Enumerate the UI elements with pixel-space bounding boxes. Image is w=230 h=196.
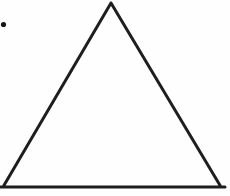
triangle-shape: [0, 3, 225, 187]
bullet-dot: [1, 22, 6, 27]
triangle-diagram: [0, 0, 230, 196]
diagram-canvas: [0, 0, 230, 196]
